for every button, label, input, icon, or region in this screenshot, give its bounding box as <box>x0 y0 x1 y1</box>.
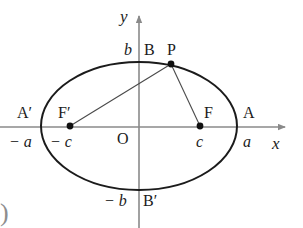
x-axis-label: x <box>272 135 280 152</box>
vertex-b-prime-label: B′ <box>143 193 157 209</box>
b-negative-label: − b <box>104 193 127 209</box>
ellipse-figure: y x O b B P − b B′ A′ A − a a F′ F − c c… <box>0 0 303 228</box>
a-negative-label: − a <box>9 134 32 150</box>
page-corner-artifact: ) <box>0 200 9 226</box>
focus-left-dot <box>67 123 74 130</box>
point-p-label: P <box>167 42 176 58</box>
vertex-b-label: B <box>144 42 155 58</box>
a-positive-label: a <box>243 134 251 150</box>
focus-right-label: F <box>204 105 213 121</box>
focus-left-label: F′ <box>58 105 70 121</box>
c-negative-label: − c <box>50 134 72 150</box>
c-positive-label: c <box>196 134 203 150</box>
y-axis-label: y <box>120 8 128 25</box>
origin-label: O <box>117 131 129 147</box>
point-p-dot <box>168 61 175 68</box>
focus-right-dot <box>197 123 204 130</box>
vertex-a-label: A <box>243 105 255 121</box>
vertex-a-prime-label: A′ <box>17 105 32 121</box>
b-positive-label: b <box>124 42 132 58</box>
